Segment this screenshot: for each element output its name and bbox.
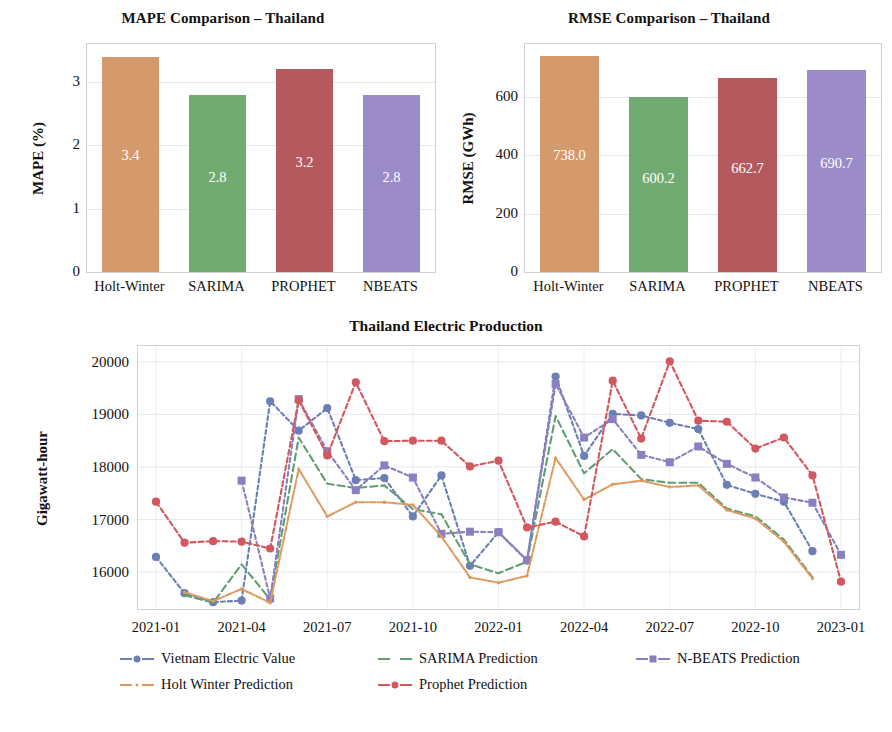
series-marker: [666, 458, 674, 466]
series-marker: [268, 601, 271, 604]
series-marker: [551, 518, 559, 526]
series-marker: [152, 553, 160, 561]
y-tick-label: 20000: [59, 354, 129, 369]
legend-swatch-icon: [378, 679, 412, 691]
y-tick-label: 0: [40, 264, 80, 279]
series-marker: [694, 442, 702, 450]
x-tick-label: 2021-10: [389, 620, 437, 635]
bar-nbeats: 2.8: [363, 95, 420, 272]
series-marker: [180, 539, 188, 547]
series-marker: [495, 528, 503, 536]
y-tick-label: 19000: [59, 407, 129, 422]
legend-item-prophet-prediction[interactable]: Prophet Prediction: [378, 676, 527, 693]
bar-value-label: 690.7: [807, 155, 866, 172]
series-marker: [209, 537, 217, 545]
timeseries-y-axis-label: Gigawatt-hour: [34, 399, 51, 559]
series-marker: [352, 486, 360, 494]
x-tick-label: 2022-04: [560, 620, 608, 635]
bar-holt-winter: 3.4: [102, 57, 159, 272]
legend-label: SARIMA Prediction: [419, 650, 538, 667]
series-marker: [352, 476, 360, 484]
series-line-vietnam-electric-value: [156, 377, 813, 603]
series-marker: [609, 415, 617, 423]
series-marker: [640, 479, 643, 482]
series-marker: [552, 380, 560, 388]
series-marker: [837, 578, 845, 586]
y-tick-label: 18000: [59, 459, 129, 474]
figure-root: MAPE Comparison – Thailand MAPE (%) 3.42…: [0, 0, 892, 732]
bar-value-label: 3.4: [102, 147, 159, 164]
series-marker: [409, 437, 417, 445]
y-tick-label: 17000: [59, 512, 129, 527]
series-marker: [466, 462, 474, 470]
series-marker: [497, 581, 500, 584]
timeseries-plot-area: [137, 345, 860, 610]
series-marker: [297, 467, 300, 470]
series-marker: [808, 547, 816, 555]
legend-item-n-beats-prediction[interactable]: N-BEATS Prediction: [636, 650, 800, 667]
y-tick-label: 0: [478, 264, 518, 279]
x-tick-label: 2023-01: [817, 620, 865, 635]
series-marker: [238, 596, 246, 604]
series-marker: [409, 512, 417, 520]
series-marker: [440, 535, 443, 538]
series-marker: [637, 411, 645, 419]
series-marker: [211, 599, 214, 602]
legend-row: Holt Winter PredictionProphet Prediction: [120, 676, 880, 702]
series-marker: [326, 515, 329, 518]
x-tick-label: NBEATS: [363, 279, 418, 294]
bar-value-label: 3.2: [276, 154, 333, 171]
x-tick-label: SARIMA: [188, 279, 244, 294]
series-marker: [580, 452, 588, 460]
x-tick-label: Holt-Winter: [533, 279, 603, 294]
series-marker: [551, 372, 559, 380]
x-tick-label: 2021-07: [303, 620, 351, 635]
legend-label: N-BEATS Prediction: [677, 650, 800, 667]
y-tick-label: 600: [478, 88, 518, 103]
x-tick-label: 2022-10: [731, 620, 779, 635]
series-marker: [668, 485, 671, 488]
series-marker: [411, 503, 414, 506]
mape-plot-area: 3.42.83.22.8: [86, 43, 436, 273]
x-tick-label: Holt-Winter: [94, 279, 164, 294]
series-marker: [723, 481, 731, 489]
bar-value-label: 738.0: [540, 147, 599, 164]
rmse-plot-area: 738.0600.2662.7690.7: [524, 43, 882, 273]
y-tick-label: 2: [40, 137, 80, 152]
series-marker: [694, 417, 702, 425]
legend-item-sarima-prediction[interactable]: SARIMA Prediction: [378, 650, 538, 667]
series-marker: [808, 499, 816, 507]
bar-sarima: 2.8: [189, 95, 246, 272]
series-marker: [725, 508, 728, 511]
bar-nbeats: 690.7: [807, 70, 866, 272]
series-marker: [383, 501, 386, 504]
legend-swatch-icon: [636, 653, 670, 665]
series-marker: [754, 517, 757, 520]
legend-item-vietnam-electric-value[interactable]: Vietnam Electric Value: [120, 650, 295, 667]
series-marker: [723, 418, 731, 426]
series-marker: [240, 587, 243, 590]
x-tick-label: 2021-04: [217, 620, 265, 635]
series-marker: [468, 576, 471, 579]
series-marker: [609, 377, 617, 385]
series-marker: [238, 477, 246, 485]
legend-item-holt-winter-prediction[interactable]: Holt Winter Prediction: [120, 676, 293, 693]
series-marker: [323, 404, 331, 412]
x-tick-label: PROPHET: [271, 279, 335, 294]
panel-mape-bar: MAPE Comparison – Thailand MAPE (%) 3.42…: [0, 0, 446, 305]
series-marker: [238, 538, 246, 546]
series-marker: [611, 483, 614, 486]
series-marker: [697, 484, 700, 487]
legend-swatch-icon: [120, 679, 154, 691]
y-tick-label: 200: [478, 205, 518, 220]
series-marker: [523, 523, 531, 531]
series-marker: [580, 434, 588, 442]
bar-value-label: 2.8: [189, 169, 246, 186]
bar-sarima: 600.2: [629, 97, 688, 272]
series-marker: [837, 551, 845, 559]
series-marker: [582, 498, 585, 501]
series-marker: [354, 501, 357, 504]
series-marker: [694, 425, 702, 433]
series-marker: [751, 474, 759, 482]
series-marker: [525, 574, 528, 577]
